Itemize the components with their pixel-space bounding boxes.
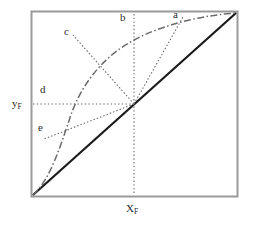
label-d-text: d — [40, 83, 46, 95]
line-a — [134, 17, 183, 104]
plot-canvas — [0, 0, 253, 226]
y-axis-label-text: y — [12, 97, 18, 109]
y-axis-label-subscript: F — [18, 102, 22, 111]
label-e: e — [38, 122, 43, 133]
label-c-text: c — [64, 25, 69, 37]
x-axis-label-subscript: F — [134, 207, 138, 216]
label-b: b — [120, 12, 126, 23]
figure-root: a b c d e yF XF — [0, 0, 253, 226]
label-b-text: b — [120, 11, 126, 23]
label-c: c — [64, 26, 69, 37]
label-a-text: a — [173, 8, 178, 20]
y-axis-label: yF — [12, 98, 22, 109]
x-axis-label-text: X — [126, 202, 134, 214]
line-e — [44, 104, 134, 139]
x-axis-label: XF — [126, 203, 138, 214]
label-e-text: e — [38, 121, 43, 133]
label-a: a — [173, 9, 178, 20]
label-d: d — [40, 84, 46, 95]
